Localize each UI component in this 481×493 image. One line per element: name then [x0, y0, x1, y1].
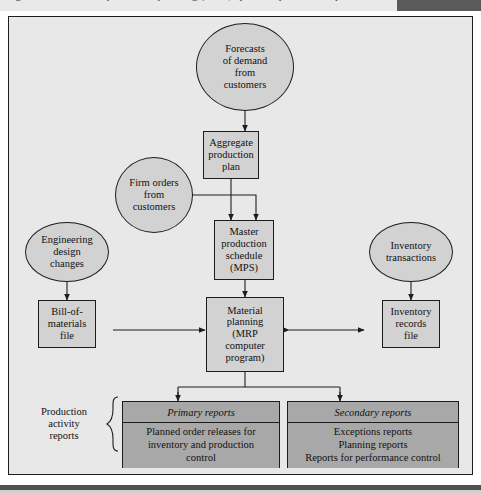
node-aggregate-production-plan-label: Aggregate production plan	[204, 137, 258, 173]
node-bill-of-materials-file[interactable]: Bill-of- materials file	[38, 300, 96, 348]
node-engineering-design-changes[interactable]: Engineering design changes	[25, 222, 109, 282]
node-forecasts[interactable]: Forecasts of demand from customers	[196, 23, 294, 111]
node-inventory-records-file[interactable]: Inventory records file	[382, 300, 440, 348]
node-aggregate-production-plan[interactable]: Aggregate production plan	[203, 131, 259, 179]
production-activity-reports-label: Production activity reports	[22, 406, 106, 442]
node-master-production-schedule-label: Master production schedule (MPS)	[215, 226, 273, 273]
secondary-reports-box[interactable]: Secondary reports Exceptions reports Pla…	[287, 401, 459, 468]
node-inventory-transactions-label: Inventory transactions	[370, 240, 452, 264]
node-firm-orders-label: Firm orders from customers	[116, 177, 192, 213]
primary-reports-header: Primary reports	[123, 402, 279, 423]
node-engineering-design-changes-label: Engineering design changes	[26, 234, 108, 270]
primary-reports-box[interactable]: Primary reports Planned order releases f…	[122, 401, 280, 468]
node-forecasts-label: Forecasts of demand from customers	[197, 43, 293, 90]
node-bill-of-materials-file-label: Bill-of- materials file	[39, 306, 95, 342]
node-material-planning-mrp-label: Material planning (MRP computer program)	[207, 305, 283, 364]
node-firm-orders[interactable]: Firm orders from customers	[115, 157, 193, 233]
screenshot-stage: Figure — Material requirements planning …	[0, 0, 481, 493]
node-material-planning-mrp[interactable]: Material planning (MRP computer program)	[206, 297, 284, 372]
page-caption-text: Figure — Material requirements planning …	[6, 0, 354, 1]
node-inventory-records-file-label: Inventory records file	[383, 306, 439, 342]
primary-reports-body: Planned order releases for inventory and…	[123, 423, 279, 468]
node-inventory-transactions[interactable]: Inventory transactions	[369, 222, 453, 282]
secondary-reports-body: Exceptions reports Planning reports Repo…	[288, 423, 458, 468]
page-caption-strip: Figure — Material requirements planning …	[0, 0, 481, 11]
caption-strip-dark-block	[397, 0, 481, 11]
secondary-reports-header: Secondary reports	[288, 402, 458, 423]
node-master-production-schedule[interactable]: Master production schedule (MPS)	[214, 220, 274, 280]
